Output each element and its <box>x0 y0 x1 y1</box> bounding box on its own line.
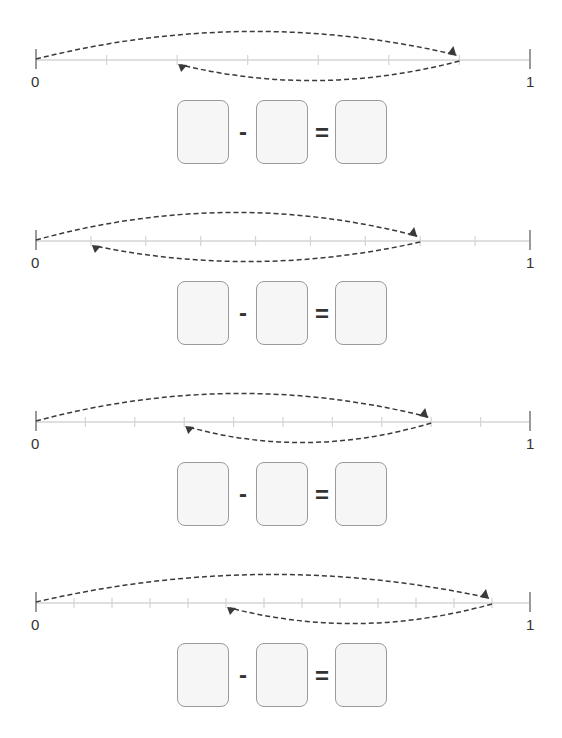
backward-jump-arc <box>230 604 492 624</box>
minuend-input-box[interactable] <box>177 643 229 707</box>
difference-input-box[interactable] <box>335 643 387 707</box>
subtrahend-input-box[interactable] <box>256 643 308 707</box>
number-line-end-label: 1 <box>526 617 534 632</box>
number-line <box>0 0 562 738</box>
number-line-start-label: 0 <box>31 617 39 632</box>
equals-sign: = <box>312 664 332 688</box>
forward-jump-arc <box>36 574 489 602</box>
arrow-head-icon <box>480 589 489 599</box>
arrow-head-icon <box>227 607 236 615</box>
minus-sign: - <box>233 663 253 687</box>
